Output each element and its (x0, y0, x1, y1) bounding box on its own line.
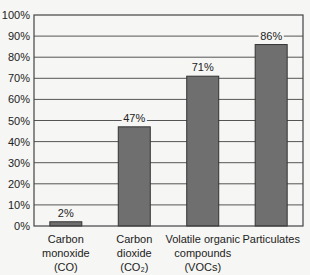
y-tick-label: 60% (8, 93, 30, 105)
bar-chart: 0%10%20%30%40%50%60%70%80%90%100%2%Carbo… (0, 0, 310, 275)
x-category-label: compounds (174, 247, 231, 259)
y-tick-label: 10% (8, 199, 30, 211)
y-tick-label: 70% (8, 72, 30, 84)
x-category-label: Volatile organic (165, 233, 240, 245)
bar (50, 222, 82, 226)
bar (187, 76, 219, 226)
bar-value-label: 2% (58, 207, 74, 219)
y-tick-label: 100% (2, 9, 30, 21)
y-tick-label: 0% (14, 220, 30, 232)
x-category-label: Particulates (242, 233, 300, 245)
bar-value-label: 47% (123, 112, 145, 124)
y-tick-label: 40% (8, 136, 30, 148)
x-category-label: Carbon (116, 233, 152, 245)
bar (255, 45, 287, 226)
x-category-label: (CO) (54, 261, 78, 273)
bar-value-label: 71% (192, 61, 214, 73)
y-tick-label: 50% (8, 115, 30, 127)
bar (118, 127, 150, 226)
x-category-label: dioxide (117, 247, 152, 259)
x-category-label: (VOCs) (184, 261, 221, 273)
x-category-label: monoxide (42, 247, 90, 259)
y-tick-label: 80% (8, 51, 30, 63)
x-category-label: Carbon (48, 233, 84, 245)
x-category-label: (CO₂) (120, 261, 148, 273)
bar-value-label: 86% (260, 30, 282, 42)
y-tick-label: 90% (8, 30, 30, 42)
y-tick-label: 20% (8, 178, 30, 190)
y-tick-label: 30% (8, 157, 30, 169)
